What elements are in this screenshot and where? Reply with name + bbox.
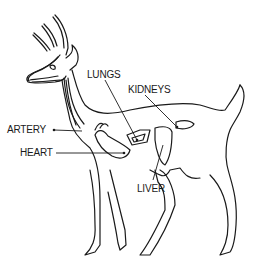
artery-leader-line [54,130,82,131]
liver-organ [155,127,172,165]
deer-anatomy-diagram: LUNGS KIDNEYS ARTERY HEART LIVER [0,0,262,267]
leader-lines [53,80,179,180]
label-liver: LIVER [137,184,165,194]
antlers [33,15,68,55]
label-kidneys: KIDNEYS [128,85,171,95]
label-heart: HEART [20,148,53,158]
label-lungs: LUNGS [87,70,120,80]
body [62,70,244,255]
kidneys-leader-line [145,95,177,127]
lungs-organ [127,130,150,145]
label-artery: ARTERY [7,125,46,135]
artery-vessel [95,123,108,130]
kidneys-organ [176,121,194,129]
head [27,45,78,83]
organs [95,121,194,165]
